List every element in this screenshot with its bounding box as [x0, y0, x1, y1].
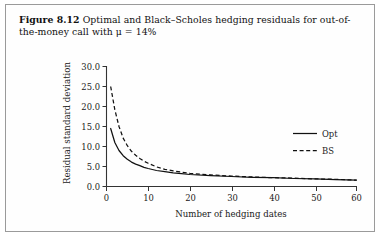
figure-frame: Figure 8.12 Optimal and Black–Scholes he… [5, 4, 375, 232]
figure-label: Figure 8.12 [19, 14, 80, 25]
figure-caption: Figure 8.12 Optimal and Black–Scholes he… [19, 14, 357, 39]
